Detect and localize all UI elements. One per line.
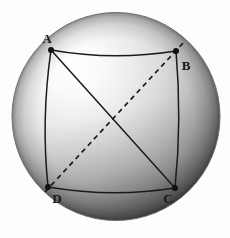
vertex-dot-a (48, 47, 54, 53)
vertex-label-d: D (52, 191, 61, 206)
vertex-dot-d (45, 184, 51, 190)
sphere-bottom-shadow (0, 0, 230, 238)
figure-container: A B C D (0, 0, 230, 238)
vertex-dot-c (172, 185, 178, 191)
sphere-diagram: A B C D (0, 0, 230, 238)
vertex-dot-b (173, 48, 179, 54)
vertex-label-c: C (163, 191, 172, 206)
vertex-label-b: B (182, 58, 191, 73)
vertex-label-a: A (42, 31, 52, 46)
